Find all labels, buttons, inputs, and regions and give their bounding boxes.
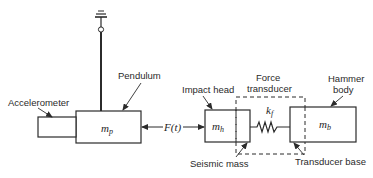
pendulum-leader-arrow — [123, 83, 141, 110]
seismic-mass-leader-arrow — [236, 143, 247, 157]
impact-head-label: Impact head — [182, 84, 234, 95]
force-symbol: F(t) — [163, 121, 181, 134]
hammer-body-leader-arrow — [331, 96, 343, 106]
transducer-base-leader-arrow — [294, 143, 304, 155]
force-transducer-label-line2: transducer — [247, 83, 292, 94]
accelerometer-box — [38, 117, 76, 137]
hammer-body-label-line2: body — [333, 84, 354, 95]
pendulum-label: Pendulum — [118, 70, 161, 81]
accelerometer-leader-arrow — [38, 108, 52, 117]
seismic-mass-label: Seismic mass — [190, 158, 249, 169]
spring-icon — [250, 122, 290, 132]
pivot-support-icon — [95, 11, 107, 32]
force-transducer-label-line1: Force — [256, 72, 280, 83]
hammer-body-label-line1: Hammer — [328, 73, 364, 84]
transducer-base-label: Transducer base — [295, 156, 366, 167]
diagram-canvas: mp Pendulum Accelerometer F(t) mh Impact… — [0, 0, 373, 178]
stiffness-symbol: kf — [266, 104, 275, 118]
impact-head-leader-arrow — [203, 96, 212, 109]
accelerometer-label: Accelerometer — [8, 97, 69, 108]
